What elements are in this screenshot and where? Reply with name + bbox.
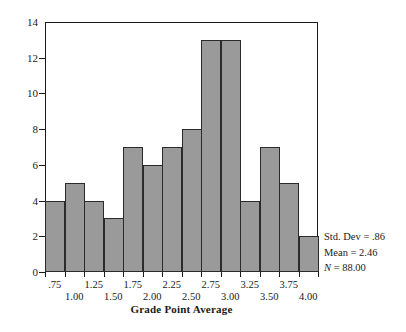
x-tick-label: 2.00 — [143, 291, 161, 302]
y-tick-mark — [39, 236, 45, 237]
y-tick-mark — [39, 58, 45, 59]
x-tick-label: 1.25 — [85, 279, 103, 290]
y-tick-mark — [39, 93, 45, 94]
x-tick-label: 3.75 — [280, 279, 298, 290]
x-axis-title: Grade Point Average — [45, 303, 318, 315]
x-tick-label: 3.50 — [260, 291, 278, 302]
x-tick-label: .75 — [48, 279, 61, 290]
mean-text: Mean = 2.46 — [324, 245, 406, 261]
x-tick-label: 2.75 — [202, 279, 220, 290]
x-tick-label: 3.00 — [221, 291, 239, 302]
x-tick-label: 3.25 — [241, 279, 259, 290]
x-axis-labels: .751.001.251.501.752.002.252.502.753.003… — [0, 0, 406, 332]
y-tick-mark — [39, 165, 45, 166]
y-tick-mark — [39, 272, 45, 273]
n-text: N = 88.00 — [324, 260, 406, 276]
y-tick-mark — [39, 201, 45, 202]
x-tick-label: 2.25 — [163, 279, 181, 290]
x-tick-label: 1.00 — [65, 291, 83, 302]
x-tick-label: 2.50 — [182, 291, 200, 302]
x-tick-label: 1.50 — [104, 291, 122, 302]
n-symbol: N — [324, 262, 331, 273]
histogram-figure: 02468101214 .751.001.251.501.752.002.252… — [0, 0, 406, 332]
statistics-annotation: Std. Dev = .86 Mean = 2.46 N = 88.00 — [324, 229, 406, 276]
y-tick-mark — [39, 129, 45, 130]
n-value: = 88.00 — [331, 262, 366, 273]
x-tick-label: 1.75 — [124, 279, 142, 290]
std-dev-text: Std. Dev = .86 — [324, 229, 406, 245]
x-tick-label: 4.00 — [299, 291, 317, 302]
